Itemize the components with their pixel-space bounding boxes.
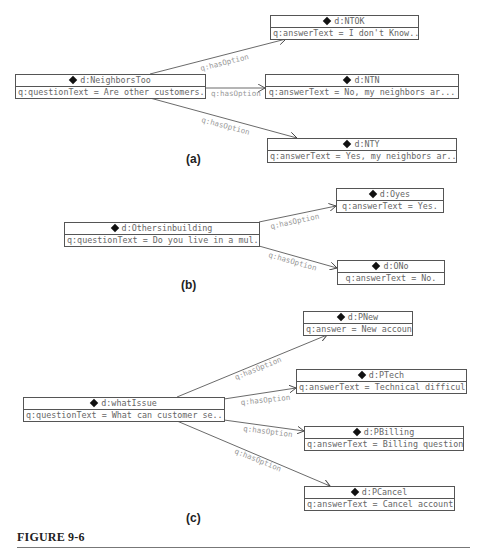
node-attr: q:answer = New account [304,324,412,335]
node-attr: q:answerText = Cancel account [305,499,454,510]
option-node-pbilling: d:PBilling q:answerText = Billing questi… [304,426,464,451]
edge-label-a1: q:hasOption [199,52,249,73]
option-node-ono: d:ONo q:answerText = No. [337,260,445,285]
node-attr: q:answerText = Yes. [337,201,443,212]
node-id: d:PTech [369,370,404,380]
node-id: d:Othersinbuilding [122,223,213,233]
diamond-icon [343,76,351,84]
panel-label-b: (b) [181,278,196,292]
question-node-othersinbuilding: d:Othersinbuilding q:questionText = Do y… [64,222,260,247]
diamond-icon [69,76,77,84]
option-node-ntok: d:NTOK q:answerText = I don't Know... [270,15,419,40]
node-attr: q:answerText = Yes, my neighbors ar... [268,151,456,162]
node-id: d:PCancel [362,487,407,497]
node-id: d:NTN [354,75,379,85]
diamond-icon [372,262,380,270]
node-id: d:Oyes [380,189,410,199]
node-attr: q:answerText = I don't Know... [271,28,418,39]
diamond-icon [323,17,331,25]
panel-label-a: (a) [186,152,201,166]
diamond-icon [353,428,361,436]
node-attr: q:questionText = What can customer se... [24,410,224,421]
node-attr: q:answerText = No, my neighbors ar... [266,87,458,98]
diamond-icon [90,399,98,407]
edge-label-c3: q:hasOption [243,424,293,439]
edge-label-c4: q:hasOption [233,447,282,474]
figure-caption: FIGURE 9-6 [17,530,85,545]
node-attr: q:questionText = Are other customers... [16,87,205,98]
caption-rule [17,547,470,548]
node-id: d:whatIssue [101,398,156,408]
panel-label-c: (c) [186,511,201,525]
diamond-icon [369,190,377,198]
option-node-nty: d:NTY q:answerText = Yes, my neighbors a… [267,138,457,163]
edge-label-b2: q:hasOption [267,250,317,272]
question-node-neighborstoo: d:NeighborsToo q:questionText = Are othe… [15,74,206,99]
diamond-icon [337,313,345,321]
diamond-icon [358,371,366,379]
node-attr: q:answerText = Technical difficulty [297,382,466,393]
node-id: d:PNew [348,312,378,322]
edge-a3 [150,98,297,138]
edge-label-a2: q:hasOption [211,89,261,98]
diamond-icon [110,224,118,232]
node-attr: q:answerText = No. [338,273,444,284]
node-attr: q:answerText = Billing question. [305,439,463,450]
node-id: d:NTOK [334,16,364,26]
diamond-icon [351,488,359,496]
edge-label-c1: q:hasOption [233,355,282,382]
diamond-icon [343,140,351,148]
node-id: d:NTY [354,139,379,149]
question-node-whatissue: d:whatIssue q:questionText = What can cu… [23,397,225,422]
node-attr: q:questionText = Do you live in a mul... [65,235,259,246]
figure-9-6: q:hasOption q:hasOption q:hasOption q:ha… [0,0,482,555]
option-node-ntn: d:NTN q:answerText = No, my neighbors ar… [265,74,459,99]
option-node-oyes: d:Oyes q:answerText = Yes. [336,188,444,213]
node-id: d:NeighborsToo [80,75,151,85]
option-node-pcancel: d:PCancel q:answerText = Cancel account [304,486,455,511]
node-id: d:PBilling [364,427,414,437]
option-node-pnew: d:PNew q:answer = New account [303,311,413,336]
node-id: d:ONo [383,261,408,271]
option-node-ptech: d:PTech q:answerText = Technical difficu… [296,369,467,394]
